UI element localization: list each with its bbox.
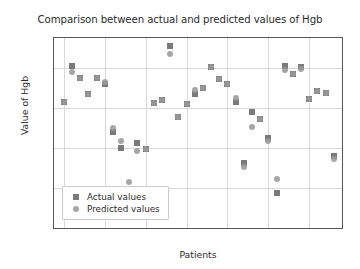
x-tickmark <box>186 228 187 229</box>
data-point-predicted <box>306 96 312 102</box>
plot-area: 0510152025306080100120140 Actual values … <box>53 37 343 229</box>
legend-square-marker-icon <box>68 194 84 200</box>
data-point-predicted <box>118 138 124 144</box>
data-point-predicted <box>282 67 288 73</box>
x-tickmark <box>104 228 105 229</box>
data-point-predicted <box>257 116 263 122</box>
data-point-predicted <box>216 76 222 82</box>
data-point-predicted <box>102 79 108 85</box>
chart-legend: Actual values Predicted values <box>62 186 169 220</box>
gridline-vertical <box>227 38 228 228</box>
legend-label-actual: Actual values <box>87 192 146 202</box>
data-point-predicted <box>265 138 271 144</box>
data-point-predicted <box>290 71 296 77</box>
data-point-predicted <box>224 81 230 87</box>
data-point-predicted <box>314 88 320 94</box>
x-tickmark <box>309 228 310 229</box>
gridline-vertical <box>268 38 269 228</box>
y-tickmark <box>53 68 54 69</box>
data-point-predicted <box>241 164 247 170</box>
data-point-predicted <box>143 146 149 152</box>
legend-item-actual[interactable]: Actual values <box>68 191 160 203</box>
legend-label-predicted: Predicted values <box>87 204 160 214</box>
data-point-predicted <box>61 99 67 105</box>
data-point-predicted <box>69 69 75 75</box>
data-point-actual <box>167 43 173 49</box>
x-tickmark <box>63 228 64 229</box>
data-point-predicted <box>77 75 83 81</box>
legend-item-predicted[interactable]: Predicted values <box>68 203 160 215</box>
y-axis-label: Value of Hgb <box>19 56 30 156</box>
data-point-predicted <box>85 91 91 97</box>
data-point-predicted <box>192 87 198 93</box>
data-point-predicted <box>151 100 157 106</box>
data-point-predicted <box>208 64 214 70</box>
data-point-predicted <box>126 179 132 185</box>
x-axis-label: Patients <box>53 249 343 260</box>
x-tickmark <box>268 228 269 229</box>
chart-figure: Comparison between actual and predicted … <box>0 0 360 269</box>
gridline-horizontal <box>54 148 342 149</box>
gridline-vertical <box>187 38 188 228</box>
x-tickmark <box>145 228 146 229</box>
data-point-predicted <box>167 51 173 57</box>
data-point-predicted <box>175 114 181 120</box>
data-point-predicted <box>134 148 140 154</box>
y-tickmark <box>53 228 54 229</box>
data-point-predicted <box>159 97 165 103</box>
data-point-actual <box>249 109 255 115</box>
y-tickmark <box>53 108 54 109</box>
data-point-predicted <box>184 101 190 107</box>
data-point-predicted <box>323 90 329 96</box>
data-point-predicted <box>233 95 239 101</box>
x-tickmark <box>227 228 228 229</box>
data-point-predicted <box>298 66 304 72</box>
y-tickmark <box>53 148 54 149</box>
data-point-predicted <box>200 85 206 91</box>
gridline-horizontal <box>54 108 342 109</box>
gridline-vertical <box>309 38 310 228</box>
data-point-actual <box>134 140 140 146</box>
data-point-predicted <box>94 75 100 81</box>
gridline-horizontal <box>54 228 342 229</box>
data-point-predicted <box>249 124 255 130</box>
data-point-predicted <box>331 156 337 162</box>
y-tickmark <box>53 188 54 189</box>
data-point-predicted <box>274 176 280 182</box>
legend-circle-marker-icon <box>68 206 84 212</box>
data-point-predicted <box>110 125 116 131</box>
chart-title: Comparison between actual and predicted … <box>0 14 360 25</box>
data-point-actual <box>118 145 124 151</box>
data-point-actual <box>274 190 280 196</box>
